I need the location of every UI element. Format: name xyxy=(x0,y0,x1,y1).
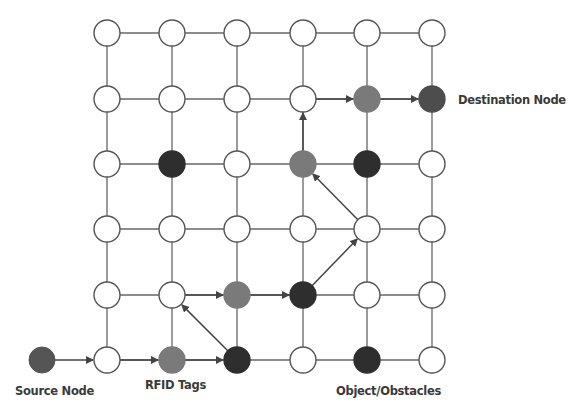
grid-node xyxy=(419,216,445,242)
grid-node xyxy=(94,282,120,308)
grid-node xyxy=(224,20,250,46)
path-arrow xyxy=(312,239,357,286)
grid-node xyxy=(354,216,380,242)
grid-node xyxy=(224,151,250,177)
grid-node xyxy=(354,282,380,308)
grid-node xyxy=(94,347,120,373)
obstacle-node xyxy=(354,151,380,177)
rfid-tag-node xyxy=(354,86,380,112)
grid-node xyxy=(290,86,316,112)
obstacles-label: Object/Obstacles xyxy=(336,384,441,398)
grid-node xyxy=(94,86,120,112)
rfid-tag-node xyxy=(224,282,250,308)
source-node xyxy=(29,347,55,373)
grid-node xyxy=(290,347,316,373)
grid-node xyxy=(419,347,445,373)
grid-node xyxy=(224,86,250,112)
grid-node xyxy=(94,151,120,177)
grid-node xyxy=(224,216,250,242)
path-arrow xyxy=(313,174,358,220)
source-node-label: Source Node xyxy=(15,384,94,398)
grid-node xyxy=(159,86,185,112)
grid-node xyxy=(159,20,185,46)
grid-diagram xyxy=(0,0,581,416)
rfid-tag-node xyxy=(159,347,185,373)
path-arrow xyxy=(182,305,228,351)
obstacle-node xyxy=(224,347,250,373)
obstacle-node xyxy=(290,282,316,308)
grid-node xyxy=(159,216,185,242)
grid-node xyxy=(419,20,445,46)
obstacle-node xyxy=(159,151,185,177)
grid-node xyxy=(419,151,445,177)
rfid-tag-node xyxy=(290,151,316,177)
grid-node xyxy=(290,20,316,46)
grid-node xyxy=(419,282,445,308)
destination-node-label: Destination Node xyxy=(458,93,566,107)
grid-edges xyxy=(107,33,432,360)
grid-node xyxy=(290,216,316,242)
rfid-tags-label: RFID Tags xyxy=(145,378,206,392)
grid-node xyxy=(159,282,185,308)
destination-node xyxy=(419,86,445,112)
grid-node xyxy=(354,20,380,46)
grid-node xyxy=(94,20,120,46)
grid-node xyxy=(94,216,120,242)
obstacle-node xyxy=(354,347,380,373)
